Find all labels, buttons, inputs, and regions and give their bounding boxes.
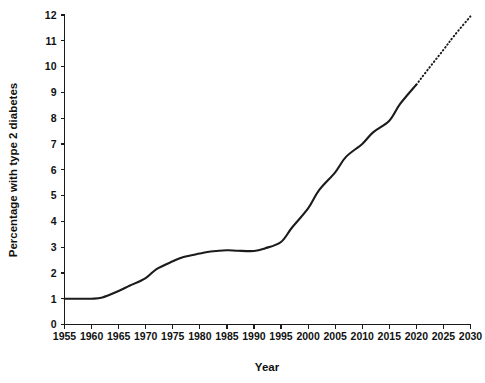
x-tick-label: 2025 bbox=[432, 330, 456, 342]
x-tick-labels: 1955196019651970197519801985199019952000… bbox=[53, 330, 483, 342]
y-tick-label: 0 bbox=[51, 318, 57, 330]
x-tick-label: 1985 bbox=[215, 330, 239, 342]
x-tick-label: 2020 bbox=[405, 330, 429, 342]
line-chart: 0123456789101112 19551960196519701975198… bbox=[0, 0, 485, 383]
y-tick-label: 11 bbox=[45, 35, 56, 47]
x-tick-label: 1970 bbox=[134, 330, 158, 342]
x-tick-label: 2010 bbox=[351, 330, 375, 342]
x-tick-label: 1980 bbox=[188, 330, 212, 342]
x-tick-label: 1955 bbox=[53, 330, 77, 342]
x-tick-label: 1960 bbox=[80, 330, 104, 342]
series-projected-line bbox=[416, 16, 470, 84]
x-tick-label: 1990 bbox=[242, 330, 266, 342]
y-tick-label: 1 bbox=[51, 293, 57, 305]
series-observed-line bbox=[65, 85, 417, 299]
y-tick-label: 9 bbox=[51, 86, 57, 98]
x-tick-label: 2015 bbox=[378, 330, 402, 342]
y-tick-label: 5 bbox=[51, 189, 57, 201]
x-tick-label: 1965 bbox=[107, 330, 131, 342]
x-axis: 1955196019651970197519801985199019952000… bbox=[53, 325, 483, 342]
x-axis-title: Year bbox=[255, 361, 280, 373]
y-axis: 0123456789101112 bbox=[45, 9, 65, 331]
x-tick-label: 2000 bbox=[296, 330, 320, 342]
y-tick-label: 8 bbox=[51, 112, 57, 124]
y-tick-labels: 0123456789101112 bbox=[45, 9, 57, 331]
x-tick-label: 2005 bbox=[323, 330, 347, 342]
y-axis-title: Percentage with type 2 diabetes bbox=[7, 83, 19, 257]
y-tick-label: 3 bbox=[51, 241, 57, 253]
y-tick-label: 6 bbox=[51, 164, 57, 176]
y-tick-label: 12 bbox=[45, 9, 57, 21]
y-tick-label: 4 bbox=[51, 215, 57, 227]
x-tick-label: 2030 bbox=[459, 330, 483, 342]
y-tick-label: 10 bbox=[45, 60, 57, 72]
data-series-group bbox=[65, 16, 471, 299]
chart-figure: 0123456789101112 19551960196519701975198… bbox=[0, 0, 485, 383]
x-tick-label: 1995 bbox=[269, 330, 293, 342]
y-tick-label: 2 bbox=[51, 267, 57, 279]
x-tick-label: 1975 bbox=[161, 330, 185, 342]
y-tick-label: 7 bbox=[51, 138, 57, 150]
